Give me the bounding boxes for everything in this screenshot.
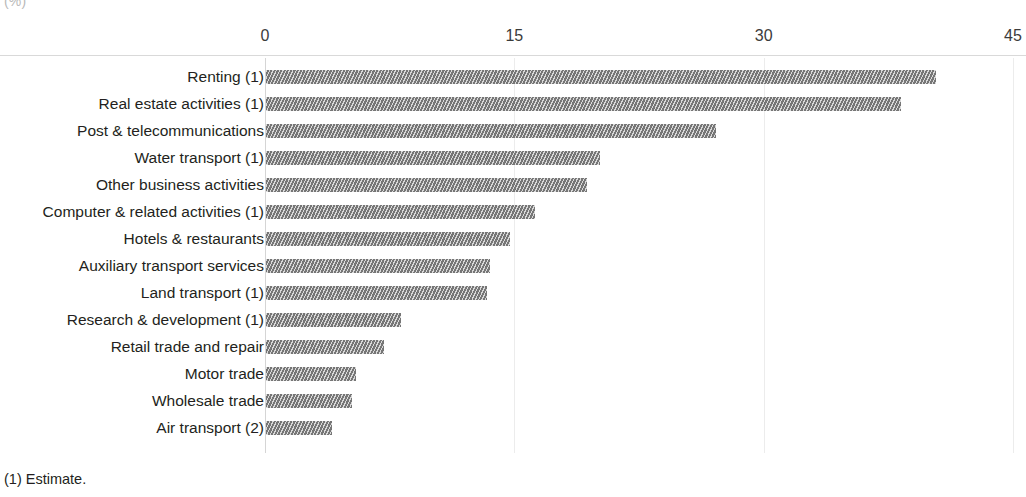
category-label: Land transport (1) xyxy=(141,280,264,307)
bar xyxy=(266,394,352,408)
bar xyxy=(266,259,490,273)
bar xyxy=(266,340,384,354)
bar-row: Land transport (1) xyxy=(265,280,1013,307)
category-label: Research & development (1) xyxy=(67,307,264,334)
x-tick-label: 45 xyxy=(1004,27,1022,45)
category-label: Auxiliary transport services xyxy=(79,253,264,280)
bar-row: Post & telecommunications xyxy=(265,118,1013,145)
footnotes: (1) Estimate. xyxy=(4,470,86,489)
category-label: Computer & related activities (1) xyxy=(43,199,264,226)
category-label: Wholesale trade xyxy=(152,388,264,415)
bar-row: Computer & related activities (1) xyxy=(265,199,1013,226)
bar-row: Renting (1) xyxy=(265,64,1013,91)
bar xyxy=(266,97,901,111)
category-label: Post & telecommunications xyxy=(77,118,264,145)
bar xyxy=(266,151,600,165)
footnote: (1) Estimate. xyxy=(4,470,86,489)
bar xyxy=(266,421,332,435)
category-label: Motor trade xyxy=(185,361,264,388)
axis-top-rule xyxy=(0,55,1026,56)
bar xyxy=(266,70,936,84)
bar-row: Wholesale trade xyxy=(265,388,1013,415)
category-label: Water transport (1) xyxy=(135,145,265,172)
bar-row: Air transport (2) xyxy=(265,415,1013,442)
bar xyxy=(266,205,535,219)
bar-row: Real estate activities (1) xyxy=(265,91,1013,118)
bar-row: Hotels & restaurants xyxy=(265,226,1013,253)
category-label: Renting (1) xyxy=(187,64,264,91)
bar-row: Water transport (1) xyxy=(265,145,1013,172)
bar xyxy=(266,286,487,300)
x-tick-label: 15 xyxy=(505,27,523,45)
category-label: Air transport (2) xyxy=(156,415,264,442)
category-label: Retail trade and repair xyxy=(111,334,264,361)
bar xyxy=(266,232,510,246)
plot-area: Renting (1)Real estate activities (1)Pos… xyxy=(265,58,1013,453)
category-label: Other business activities xyxy=(96,172,264,199)
category-label: Hotels & restaurants xyxy=(124,226,264,253)
bar-row: Auxiliary transport services xyxy=(265,253,1013,280)
units-label: (%) xyxy=(4,0,26,9)
bar-chart: (%) 0153045 Renting (1)Real estate activ… xyxy=(0,0,1026,497)
bar xyxy=(266,124,716,138)
x-tick-label: 30 xyxy=(755,27,773,45)
bar xyxy=(266,367,356,381)
gridline xyxy=(1013,58,1014,453)
bar-row: Other business activities xyxy=(265,172,1013,199)
bar-row: Research & development (1) xyxy=(265,307,1013,334)
bar-rows: Renting (1)Real estate activities (1)Pos… xyxy=(265,58,1013,453)
bar-row: Motor trade xyxy=(265,361,1013,388)
category-label: Real estate activities (1) xyxy=(99,91,264,118)
bar-row: Retail trade and repair xyxy=(265,334,1013,361)
bar xyxy=(266,178,587,192)
bar xyxy=(266,313,401,327)
x-tick-label: 0 xyxy=(261,27,270,45)
